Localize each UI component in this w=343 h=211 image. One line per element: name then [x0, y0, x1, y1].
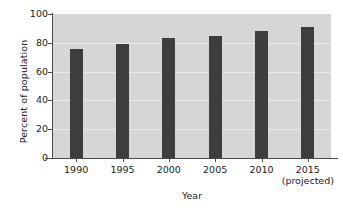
y-axis-tick-label: 60: [18, 67, 48, 77]
x-axis-tick-mark: [308, 159, 309, 162]
bar-chart-figure: Percent of population 020406080100 Year …: [0, 0, 343, 211]
gridline: [53, 43, 331, 44]
bar: [301, 27, 314, 158]
x-axis-tick-mark: [123, 159, 124, 162]
y-axis-tick-mark: [48, 43, 52, 44]
y-axis-tick-mark: [48, 14, 52, 15]
gridline: [53, 129, 331, 130]
y-axis-tick-label: 20: [18, 124, 48, 134]
x-axis-tick-mark: [169, 159, 170, 162]
x-axis-tick-mark: [262, 159, 263, 162]
plot-area: [53, 14, 331, 158]
x-axis-title: Year: [53, 190, 331, 201]
gridline: [53, 100, 331, 101]
y-axis-tick-mark: [48, 158, 52, 159]
x-axis-tick-label: 2015(projected): [273, 164, 343, 186]
y-axis-tick-labels: 020406080100: [18, 0, 48, 211]
bar: [116, 44, 129, 158]
x-axis-line: [45, 158, 338, 159]
y-axis-tick-mark: [48, 129, 52, 130]
y-axis-tick-label: 100: [18, 9, 48, 19]
y-axis-tick-mark: [48, 72, 52, 73]
y-axis-tick-mark: [48, 100, 52, 101]
bar: [255, 31, 268, 158]
y-axis-tick-label: 80: [18, 38, 48, 48]
x-axis-tick-mark: [76, 159, 77, 162]
x-axis-tick-mark: [215, 159, 216, 162]
bar: [162, 38, 175, 158]
y-axis-tick-label: 40: [18, 95, 48, 105]
bar: [70, 49, 83, 158]
x-axis-tick-sublabel: (projected): [273, 175, 343, 186]
bar: [209, 36, 222, 158]
gridline: [53, 72, 331, 73]
y-axis-tick-label: 0: [18, 153, 48, 163]
